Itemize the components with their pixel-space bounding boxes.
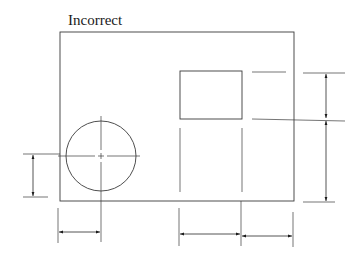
slot-rectangle [180, 71, 242, 119]
technical-drawing [0, 0, 352, 261]
dimension-lines [33, 74, 326, 236]
extension-lines [23, 72, 345, 247]
object-outline [60, 32, 294, 201]
